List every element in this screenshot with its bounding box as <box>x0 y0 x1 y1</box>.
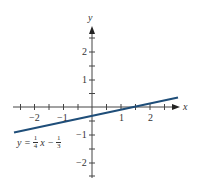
x-axis-arrow-icon <box>172 104 180 110</box>
y-tick-label-neg1: −1 <box>76 130 87 140</box>
equation-lhs: y = <box>17 137 31 148</box>
y-tick-label-neg2: −2 <box>76 158 87 168</box>
x-tick-label-neg2: −2 <box>29 113 40 123</box>
x-tick-label-1: 1 <box>119 113 124 123</box>
y-tick-label-2: 2 <box>82 47 87 57</box>
fraction-denominator: 4 <box>34 143 38 150</box>
fraction-one-third: 1 3 <box>56 135 62 150</box>
x-axis-label: x <box>183 102 187 112</box>
graph-canvas <box>0 0 199 194</box>
y-tick-label-1: 1 <box>82 75 87 85</box>
x-tick-label-neg1: −1 <box>57 113 68 123</box>
fraction-one-quarter: 1 4 <box>33 135 39 150</box>
equation-var: x − <box>40 137 54 148</box>
equation-label: y = 1 4 x − 1 3 <box>17 135 62 150</box>
y-axis-label: y <box>88 13 92 23</box>
x-tick-label-2: 2 <box>148 113 153 123</box>
fraction-denominator: 3 <box>57 143 61 150</box>
y-axis-arrow-icon <box>89 26 95 34</box>
